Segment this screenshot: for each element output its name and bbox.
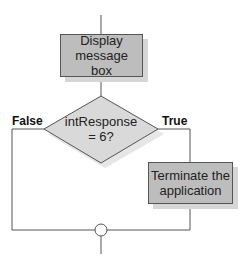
decision-label-line1: intResponse (61, 114, 141, 129)
terminate-label-line1: Terminate the (151, 168, 230, 183)
terminate-label-line2: application (159, 183, 221, 198)
true-branch-label: True (162, 114, 187, 128)
merge-connector-icon (95, 224, 107, 236)
display-message-box-label: Display message box (67, 33, 137, 78)
display-message-box-process: Display message box (60, 34, 143, 77)
false-branch-label: False (12, 114, 43, 128)
terminate-application-process: Terminate the application (148, 162, 233, 204)
decision-label-line2: = 6? (61, 129, 141, 144)
decision-label: intResponse = 6? (61, 114, 141, 144)
